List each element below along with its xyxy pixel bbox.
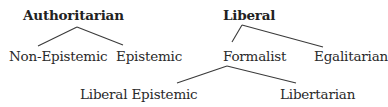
edge-liberal-egalitarian <box>242 25 323 47</box>
edge-formalist-liberal-epistemic <box>177 66 227 83</box>
node-formalist: Formalist <box>223 50 286 64</box>
node-egalitarian: Egalitarian <box>314 50 388 64</box>
edge-authoritarian-epistemic <box>77 27 123 45</box>
node-non-epistemic: Non-Epistemic <box>9 50 107 64</box>
edge-authoritarian-non-epistemic <box>38 27 77 46</box>
edge-liberal-formalist <box>232 25 242 42</box>
node-liberal-epistemic: Liberal Epistemic <box>80 88 197 102</box>
edge-formalist-libertarian <box>227 66 296 83</box>
node-epistemic: Epistemic <box>116 50 182 64</box>
node-libertarian: Libertarian <box>280 88 355 102</box>
node-authoritarian: Authoritarian <box>23 9 124 23</box>
node-liberal: Liberal <box>223 9 275 23</box>
